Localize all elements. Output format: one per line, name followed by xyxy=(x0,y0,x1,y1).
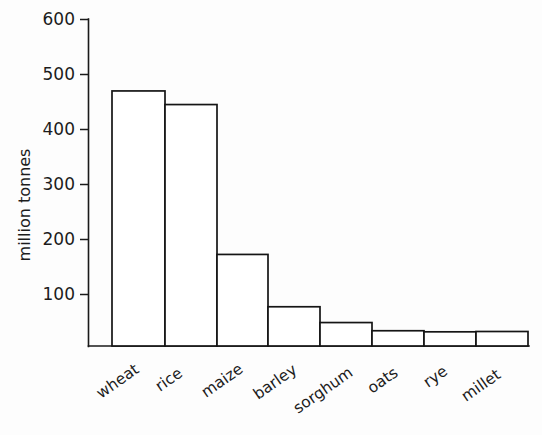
bar-chart-figure: 600 500 400 300 200 100 million tonnes w… xyxy=(0,0,542,435)
x-tick-label-barley: barley xyxy=(250,361,300,404)
y-tick-label-200: 200 xyxy=(43,229,75,249)
bar-sorghum xyxy=(320,323,372,346)
y-axis-tick-labels: 600 500 400 300 200 100 xyxy=(43,9,75,304)
bar-series xyxy=(112,91,528,346)
y-axis-ticks xyxy=(80,20,89,295)
x-tick-label-oats: oats xyxy=(364,364,401,398)
bar-barley xyxy=(268,307,320,346)
x-tick-label-rye: rye xyxy=(420,362,451,391)
x-tick-label-wheat: wheat xyxy=(93,360,142,402)
bar-rye xyxy=(424,332,476,346)
bar-wheat xyxy=(112,91,165,346)
bar-millet xyxy=(476,332,528,347)
y-axis-title: million tonnes xyxy=(15,149,34,262)
y-tick-label-400: 400 xyxy=(43,119,75,139)
bar-rice xyxy=(165,105,217,346)
y-tick-label-100: 100 xyxy=(43,284,75,304)
chart-canvas: 600 500 400 300 200 100 million tonnes w… xyxy=(0,0,542,435)
bar-maize xyxy=(217,254,268,346)
y-tick-label-600: 600 xyxy=(43,9,75,29)
x-tick-label-maize: maize xyxy=(198,360,246,401)
x-axis-tick-labels: wheat rice maize barley sorghum oats rye… xyxy=(93,360,504,417)
y-tick-label-500: 500 xyxy=(43,64,75,84)
x-tick-label-sorghum: sorghum xyxy=(290,363,356,417)
x-tick-label-millet: millet xyxy=(458,366,504,406)
bar-oats xyxy=(372,331,424,346)
y-tick-label-300: 300 xyxy=(43,174,75,194)
x-tick-label-rice: rice xyxy=(152,364,186,395)
